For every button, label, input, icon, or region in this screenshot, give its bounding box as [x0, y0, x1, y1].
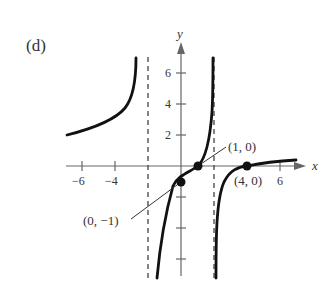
graph-figure: (d) x y −6 −4 6 2 4 6 — [0, 0, 336, 283]
leader-point-0-neg1 — [131, 182, 181, 219]
tick-label-x-6: 6 — [277, 174, 283, 188]
tick-label-y-2: 2 — [165, 128, 171, 142]
left-branch-curve — [67, 58, 136, 135]
point-label-0-neg1: (0, −1) — [83, 213, 119, 228]
y-axis-arrow-icon — [177, 42, 185, 54]
x-axis-arrow-icon — [294, 162, 306, 170]
tick-label-x-neg4: −4 — [105, 174, 118, 188]
tick-label-x-neg6: −6 — [72, 174, 85, 188]
x-axis-label: x — [311, 158, 318, 173]
tick-label-y-6: 6 — [165, 66, 171, 80]
middle-branch-curve — [157, 58, 213, 278]
point-4-0-marker — [243, 162, 252, 171]
point-label-4-0: (4, 0) — [234, 173, 262, 188]
point-0-neg1-marker — [177, 178, 186, 187]
y-axis-label: y — [175, 26, 183, 41]
tick-label-y-4: 4 — [165, 97, 171, 111]
leader-point-1-0 — [198, 147, 226, 166]
point-label-1-0: (1, 0) — [228, 139, 256, 154]
part-label: (d) — [26, 36, 46, 55]
point-1-0-marker — [194, 162, 203, 171]
